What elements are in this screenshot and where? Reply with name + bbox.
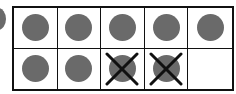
frame-cell-8 bbox=[101, 49, 145, 90]
cross-out-icon bbox=[105, 52, 139, 86]
frame-cell-2 bbox=[58, 8, 102, 49]
counter-dot bbox=[22, 55, 49, 82]
frame-cell-5 bbox=[188, 8, 232, 49]
counter-dot bbox=[65, 14, 92, 41]
counter-dot bbox=[197, 14, 224, 41]
frame-cell-6 bbox=[14, 49, 58, 90]
cross-out-icon bbox=[149, 52, 183, 86]
ten-frame bbox=[12, 6, 234, 91]
frame-cell-3 bbox=[101, 8, 145, 49]
counter-dot bbox=[109, 14, 136, 41]
frame-cell-7 bbox=[58, 49, 102, 90]
frame-cell-4 bbox=[145, 8, 189, 49]
frame-cell-9 bbox=[145, 49, 189, 90]
frame-cell-10 bbox=[188, 49, 232, 90]
frame-cell-1 bbox=[14, 8, 58, 49]
counter-dot bbox=[22, 14, 49, 41]
partial-dot-left-edge bbox=[0, 8, 6, 30]
counter-dot bbox=[153, 14, 180, 41]
counter-dot bbox=[65, 55, 92, 82]
